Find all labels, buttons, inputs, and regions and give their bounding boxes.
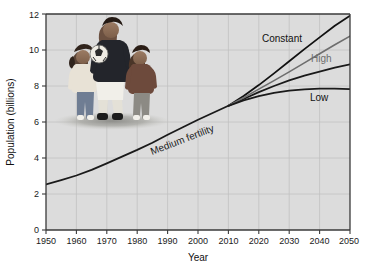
- x-axis-title: Year: [188, 252, 209, 263]
- x-tick-label: 1950: [36, 236, 56, 246]
- y-tick-label: 10: [29, 45, 39, 55]
- photo-ground-shadow: [54, 112, 170, 130]
- y-tick-label: 12: [29, 10, 39, 20]
- population-projection-figure: 1950 1960 1970 1980 1990 2000 2010 2020 …: [0, 0, 371, 269]
- x-tick-label: 1990: [158, 236, 178, 246]
- y-tick-label: 8: [34, 81, 39, 91]
- y-axis-title: Population (billions): [5, 78, 16, 165]
- series-label-high: High: [311, 53, 332, 64]
- x-tick-label: 2050: [339, 236, 359, 246]
- x-tick-labels: 1950 1960 1970 1980 1990 2000 2010 2020 …: [36, 236, 359, 246]
- x-tick-label: 2030: [279, 236, 299, 246]
- x-tick-label: 2010: [218, 236, 238, 246]
- series-label-constant: Constant: [262, 33, 302, 44]
- x-tick-label: 2040: [310, 236, 330, 246]
- x-tick-label: 1960: [66, 236, 86, 246]
- x-tick-label: 1970: [97, 236, 117, 246]
- population-chart: 1950 1960 1970 1980 1990 2000 2010 2020 …: [0, 0, 371, 269]
- y-tick-label: 0: [34, 225, 39, 235]
- x-tick-label: 2020: [249, 236, 269, 246]
- series-label-low: Low: [310, 92, 329, 103]
- y-tick-label: 4: [34, 153, 39, 163]
- x-tick-label: 1980: [127, 236, 147, 246]
- y-tick-label: 6: [34, 117, 39, 127]
- x-tick-label: 2000: [188, 236, 208, 246]
- y-tick-label: 2: [34, 189, 39, 199]
